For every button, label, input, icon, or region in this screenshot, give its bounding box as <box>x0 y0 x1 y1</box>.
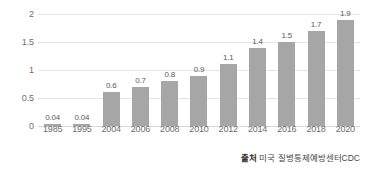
bar[interactable]: 0.8 <box>161 81 178 126</box>
x-axis-tick-label: 2018 <box>301 124 330 134</box>
x-axis-tick-label: 2010 <box>184 124 213 134</box>
bar-value-label: 0.7 <box>135 76 146 85</box>
bar-slot: 0.7 <box>126 14 155 126</box>
y-axis-labels: 0 0.5 1 1.5 2 <box>0 14 34 126</box>
bar-value-label: 1.7 <box>311 20 322 29</box>
bar-chart: 0 0.5 1 1.5 2 0.040.040.60.70.80.91.11.4… <box>0 0 372 171</box>
bar-value-label: 0.6 <box>106 81 117 90</box>
x-axis-tick-label: 2016 <box>272 124 301 134</box>
bar[interactable]: 1.4 <box>249 48 266 126</box>
bar-series: 0.040.040.60.70.80.91.11.41.51.71.9 <box>38 14 360 126</box>
source-body: 미국 질병통제예방센터CDC <box>257 153 360 163</box>
bar-value-label: 0.04 <box>75 113 90 122</box>
bar-slot: 1.1 <box>214 14 243 126</box>
bar-slot: 0.8 <box>155 14 184 126</box>
bar[interactable]: 0.7 <box>132 87 149 126</box>
source-note: 출처 미국 질병통제예방센터CDC <box>241 151 360 163</box>
bar[interactable]: 1.1 <box>220 64 237 126</box>
y-axis-tick-label: 0.5 <box>22 93 34 103</box>
bar-slot: 1.9 <box>331 14 360 126</box>
source-prefix: 출처 <box>241 153 257 163</box>
bar-value-label: 1.9 <box>340 9 351 18</box>
bar-slot: 0.04 <box>38 14 67 126</box>
y-axis-tick-label: 1 <box>29 65 34 75</box>
x-axis-tick-label: 2006 <box>126 124 155 134</box>
bar-value-label: 0.04 <box>45 113 60 122</box>
bar-value-label: 0.9 <box>194 65 205 74</box>
x-axis-tick-label: 2008 <box>155 124 184 134</box>
bar-slot: 1.4 <box>243 14 272 126</box>
x-axis-tick-label: 1985 <box>38 124 67 134</box>
bar[interactable]: 1.5 <box>278 42 295 126</box>
bar-slot: 0.9 <box>184 14 213 126</box>
bar[interactable]: 1.9 <box>337 20 354 126</box>
x-axis-tick-label: 2004 <box>97 124 126 134</box>
x-axis-tick-label: 2020 <box>331 124 360 134</box>
x-axis-labels: 1985199520042006200820102012201420162018… <box>38 124 360 134</box>
bar[interactable]: 0.9 <box>190 76 207 126</box>
y-axis-tick-label: 1.5 <box>22 37 34 47</box>
x-axis-tick-label: 2012 <box>214 124 243 134</box>
bar-value-label: 0.8 <box>164 70 175 79</box>
bar-slot: 0.6 <box>97 14 126 126</box>
bar-slot: 1.7 <box>301 14 330 126</box>
x-axis-tick-label: 2014 <box>243 124 272 134</box>
bar-value-label: 1.5 <box>281 31 292 40</box>
bar-slot: 1.5 <box>272 14 301 126</box>
bar-value-label: 1.1 <box>223 53 234 62</box>
bar-slot: 0.04 <box>67 14 96 126</box>
plot-area: 0.040.040.60.70.80.91.11.41.51.71.9 <box>38 14 360 126</box>
x-axis-tick-label: 1995 <box>67 124 96 134</box>
y-axis-tick-label: 0 <box>29 121 34 131</box>
y-axis-tick-label: 2 <box>29 9 34 19</box>
bar[interactable]: 1.7 <box>308 31 325 126</box>
bar-value-label: 1.4 <box>252 37 263 46</box>
bar[interactable]: 0.6 <box>103 92 120 126</box>
